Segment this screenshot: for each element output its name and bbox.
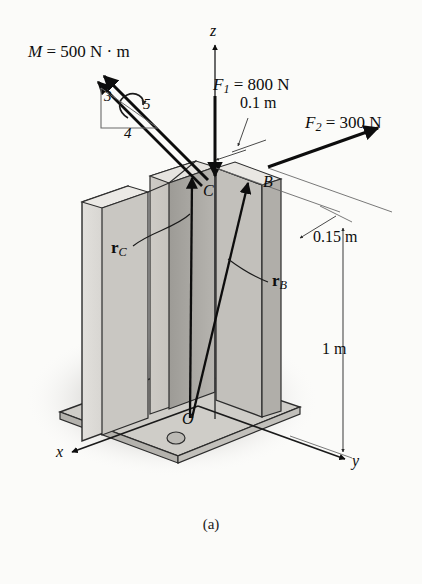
rc-subscript: C bbox=[119, 245, 127, 259]
rb-symbol: r bbox=[272, 271, 280, 290]
axis-label-z: z bbox=[210, 22, 216, 40]
mechanics-free-body-diagram bbox=[0, 0, 422, 584]
dimension-0-15m-label: 0.15 m bbox=[313, 228, 357, 246]
moment-value-text: = 500 N · m bbox=[42, 42, 130, 61]
rc-symbol: r bbox=[111, 238, 119, 257]
slope-run-label: 4 bbox=[124, 125, 132, 142]
axis-label-y: y bbox=[352, 452, 359, 470]
force-f2-label: F2 = 300 N bbox=[305, 113, 382, 135]
rb-subscript: B bbox=[280, 278, 287, 292]
column-front-flange-left-inner bbox=[102, 192, 148, 435]
dimension-0-1m-label: 0.1 m bbox=[240, 94, 276, 112]
slope-rise-label: 3 bbox=[104, 88, 112, 105]
point-label-C: C bbox=[203, 182, 214, 200]
f2-symbol: F bbox=[305, 113, 315, 132]
f1-value: = 800 N bbox=[230, 75, 290, 94]
dimension-1m-label: 1 m bbox=[322, 340, 346, 358]
point-label-O: O bbox=[182, 410, 194, 428]
axis-label-x: x bbox=[56, 443, 63, 461]
i-beam-column bbox=[82, 161, 281, 441]
point-label-B: B bbox=[263, 173, 273, 191]
bolt bbox=[167, 432, 185, 444]
slope-hyp-label: 5 bbox=[143, 96, 151, 113]
f2-value: = 300 N bbox=[322, 113, 382, 132]
moment-symbol: M bbox=[28, 42, 42, 61]
moment-label: M = 500 N · m bbox=[28, 42, 130, 62]
position-vector-rc-label: rC bbox=[111, 238, 127, 260]
figure-caption: (a) bbox=[0, 516, 422, 533]
position-vector-rb-label: rB bbox=[272, 271, 287, 293]
f1-symbol: F bbox=[213, 75, 223, 94]
column-front-flange-right-outer bbox=[262, 179, 281, 417]
